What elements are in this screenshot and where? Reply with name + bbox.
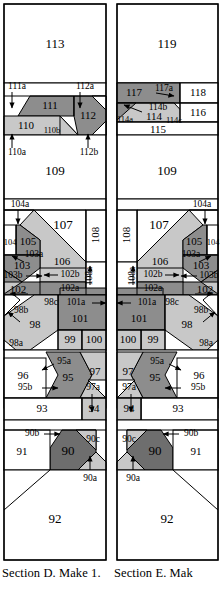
- label-108a: 108a: [84, 266, 94, 285]
- label-108a-e: 108a: [127, 266, 137, 285]
- label-95b-e: 95b: [191, 382, 206, 392]
- section-d-panel: 113 111a 112a 111 112 110 110b 110a 112b…: [0, 0, 110, 565]
- label-101a-e: 101a: [138, 297, 157, 307]
- label-90a-e: 90a: [126, 473, 141, 483]
- label-109-e: 109: [157, 163, 177, 178]
- label-105: 105: [20, 235, 37, 247]
- label-103-e: 103: [193, 259, 210, 271]
- label-106: 106: [54, 255, 71, 267]
- label-97: 97: [90, 365, 102, 377]
- label-95a: 95a: [57, 356, 72, 366]
- label-95-e: 95: [150, 371, 162, 383]
- label-106-e: 106: [152, 255, 169, 267]
- label-102a-e: 102a: [144, 283, 163, 293]
- label-98: 98: [30, 318, 42, 330]
- label-119: 119: [157, 36, 176, 51]
- label-99: 99: [65, 333, 77, 345]
- label-103b-e: 103b: [200, 270, 219, 280]
- label-108: 108: [89, 226, 101, 243]
- label-114: 114: [146, 110, 163, 122]
- label-104a-e: 104a: [193, 199, 212, 209]
- label-102a: 102a: [61, 283, 80, 293]
- label-100-e: 100: [120, 333, 137, 345]
- label-102: 102: [10, 283, 27, 295]
- label-90c: 90c: [86, 434, 100, 444]
- label-110a: 110a: [8, 147, 27, 157]
- section-e-caption: Section E. Mak: [114, 566, 193, 581]
- label-98a-e: 98a: [199, 338, 214, 348]
- label-110b: 110b: [44, 125, 61, 135]
- label-101: 101: [72, 312, 89, 324]
- label-90b-e: 90b: [184, 428, 199, 438]
- label-109: 109: [45, 163, 65, 178]
- label-91-e: 91: [191, 445, 202, 457]
- label-96-e: 96: [194, 369, 206, 381]
- label-104-e: 104: [207, 237, 221, 247]
- label-98-e: 98: [182, 318, 194, 330]
- label-111a: 111a: [8, 81, 27, 91]
- label-97-e: 97: [123, 365, 135, 377]
- label-102b: 102b: [61, 269, 80, 279]
- label-117a: 117a: [155, 83, 174, 93]
- label-92: 92: [49, 511, 62, 526]
- label-112b: 112b: [80, 147, 99, 157]
- label-91: 91: [17, 445, 28, 457]
- label-105-e: 105: [186, 235, 203, 247]
- label-115: 115: [150, 123, 167, 135]
- label-117: 117: [126, 86, 143, 98]
- label-95: 95: [63, 371, 75, 383]
- label-98c: 98c: [44, 297, 58, 307]
- label-95b: 95b: [18, 382, 33, 392]
- label-94-e: 94: [124, 402, 136, 414]
- section-e-diagram: 119 117 117a 118 114b 114 114a 114c 116 …: [112, 0, 223, 565]
- label-98b-e: 98b: [194, 305, 209, 315]
- label-92-e: 92: [161, 511, 174, 526]
- section-d-caption: Section D. Make 1.: [2, 566, 101, 581]
- label-90c-e: 90c: [122, 434, 136, 444]
- label-93: 93: [37, 402, 49, 414]
- label-118: 118: [190, 86, 207, 98]
- label-114c: 114c: [166, 115, 182, 125]
- label-101-e: 101: [131, 312, 148, 324]
- label-112a: 112a: [76, 81, 95, 91]
- label-114a: 114a: [117, 114, 133, 124]
- label-113: 113: [45, 36, 64, 51]
- label-104: 104: [4, 237, 18, 247]
- section-d-diagram: 113 111a 112a 111 112 110 110b 110a 112b…: [0, 0, 110, 565]
- label-95a-e: 95a: [150, 356, 165, 366]
- label-108-e: 108: [120, 226, 132, 243]
- label-96: 96: [18, 369, 30, 381]
- label-111: 111: [42, 99, 58, 111]
- label-110: 110: [18, 119, 35, 131]
- label-94: 94: [89, 402, 101, 414]
- label-101a: 101a: [67, 297, 86, 307]
- label-90-e: 90: [149, 443, 162, 458]
- label-116: 116: [190, 106, 207, 118]
- label-99-e: 99: [148, 333, 160, 345]
- label-98a: 98a: [9, 338, 24, 348]
- label-107: 107: [53, 217, 73, 232]
- label-102b-e: 102b: [144, 269, 163, 279]
- label-104a: 104a: [11, 199, 30, 209]
- label-100: 100: [86, 333, 103, 345]
- label-98b: 98b: [14, 305, 29, 315]
- section-e-panel: 119 117 117a 118 114b 114 114a 114c 116 …: [112, 0, 222, 565]
- label-93-e: 93: [173, 402, 185, 414]
- label-103b: 103b: [4, 270, 23, 280]
- label-98c-e: 98c: [165, 297, 179, 307]
- label-97a-e: 97a: [122, 382, 137, 392]
- label-107-e: 107: [149, 217, 169, 232]
- label-103: 103: [14, 259, 31, 271]
- label-90: 90: [62, 443, 75, 458]
- pattern-page: 113 111a 112a 111 112 110 110b 110a 112b…: [0, 0, 223, 597]
- label-102-e: 102: [197, 283, 214, 295]
- label-90a: 90a: [83, 473, 98, 483]
- label-97a: 97a: [86, 382, 101, 392]
- label-90b: 90b: [25, 428, 40, 438]
- label-112: 112: [80, 109, 96, 121]
